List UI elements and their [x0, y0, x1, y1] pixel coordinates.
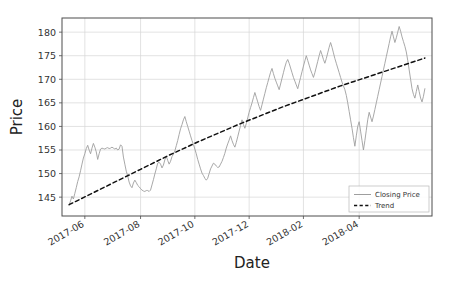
legend-label-closing-price: Closing Price [375, 191, 420, 199]
y-tick-label: 175 [38, 50, 56, 61]
y-tick-label: 160 [38, 121, 56, 132]
price-trend-line-chart: 145150155160165170175180 2017-062017-082… [0, 0, 460, 281]
y-tick-label: 150 [38, 168, 56, 179]
y-tick-label: 170 [38, 74, 56, 85]
chart-figure: 145150155160165170175180 2017-062017-082… [0, 0, 460, 281]
y-tick-label: 165 [38, 97, 56, 108]
legend-label-trend: Trend [374, 202, 394, 210]
y-axis-title: Price [8, 99, 26, 136]
x-axis-title: Date [234, 254, 270, 272]
chart-legend[interactable]: Closing Price Trend [349, 186, 429, 212]
y-tick-label: 145 [38, 192, 56, 203]
y-tick-label: 155 [38, 144, 56, 155]
y-tick-label: 180 [38, 27, 56, 38]
